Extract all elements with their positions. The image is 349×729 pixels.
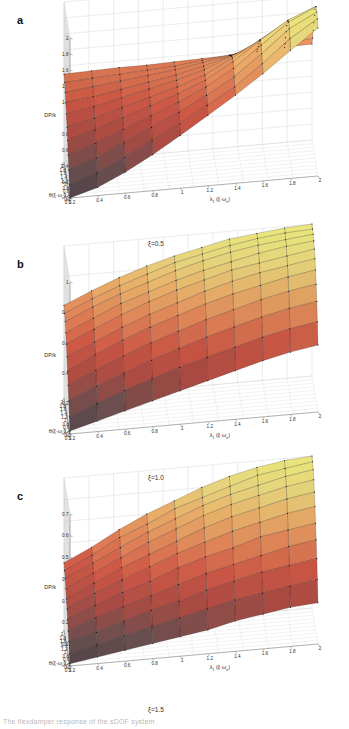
svg-text:0.4: 0.4: [96, 198, 103, 203]
svg-text:0.8: 0.8: [151, 661, 158, 666]
svg-text:0.2: 0.2: [69, 436, 76, 441]
svg-text:0.8: 0.8: [151, 193, 158, 198]
svg-text:λ1 (ξ·ωn): λ1 (ξ·ωn): [210, 432, 230, 440]
svg-text:1.6: 1.6: [262, 183, 269, 188]
svg-text:1.8: 1.8: [289, 181, 296, 186]
svg-text:1.8: 1.8: [289, 417, 296, 422]
plot-b: 10.80.60.40.20DP/k21.81.61.41.210.80.60.…: [52, 266, 332, 456]
svg-text:1.2: 1.2: [207, 188, 214, 193]
svg-text:2: 2: [66, 36, 69, 41]
svg-text:1.6: 1.6: [262, 651, 269, 656]
svg-text:0.4: 0.4: [96, 666, 103, 671]
svg-text:θ(ξ·ωn): θ(ξ·ωn): [49, 192, 66, 200]
svg-text:λ1 (ξ·ωn): λ1 (ξ·ωn): [210, 196, 230, 204]
svg-text:1.2: 1.2: [207, 656, 214, 661]
svg-text:1: 1: [181, 190, 184, 195]
svg-text:2: 2: [319, 646, 322, 651]
panel-b: b 10.80.60.40.20DP/k21.81.61.41.210.80.6…: [0, 252, 349, 484]
svg-text:0.2: 0.2: [69, 200, 76, 205]
panel-c: c 0.70.60.50.40.30.20.10DP/k21.81.61.41.…: [0, 484, 349, 724]
plot-a: 21.81.61.41.210.80.60.40.20DP/k21.81.61.…: [52, 22, 332, 212]
plot-c: 0.70.60.50.40.30.20.10DP/k21.81.61.41.21…: [52, 498, 332, 688]
panel-a: a 21.81.61.41.210.80.60.40.20DP/k21.81.6…: [0, 8, 349, 252]
svg-text:0.7: 0.7: [62, 512, 69, 517]
svg-text:0.5: 0.5: [62, 555, 69, 560]
svg-text:1: 1: [66, 280, 69, 285]
svg-text:1.8: 1.8: [289, 649, 296, 654]
figure-page: · · · · · a 21.81.61.41.210.80.60.40.20D…: [0, 0, 349, 729]
svg-text:DP/k: DP/k: [44, 112, 56, 118]
svg-text:1.2: 1.2: [207, 424, 214, 429]
svg-text:1.6: 1.6: [62, 68, 69, 73]
panel-letter-a: a: [17, 14, 23, 26]
svg-text:2: 2: [319, 414, 322, 419]
xi-caption: ξ=1.5: [148, 706, 164, 713]
svg-text:λ1 (ξ·ωn): λ1 (ξ·ωn): [210, 664, 230, 672]
svg-text:0.6: 0.6: [62, 533, 69, 538]
xi-caption: ξ=0.5: [148, 240, 164, 247]
svg-text:2: 2: [319, 178, 322, 183]
svg-text:θ(ξ·ωn): θ(ξ·ωn): [49, 428, 66, 436]
svg-text:0.6: 0.6: [124, 195, 131, 200]
svg-text:0.2: 0.2: [69, 668, 76, 673]
panel-letter-b: b: [17, 258, 24, 270]
svg-text:0.6: 0.6: [124, 431, 131, 436]
svg-text:θ(ξ·ωn): θ(ξ·ωn): [49, 660, 66, 668]
svg-text:1: 1: [181, 426, 184, 431]
svg-text:0.6: 0.6: [124, 663, 131, 668]
figure-caption-partial: The flexdamper response of the sDOF syst…: [3, 718, 347, 729]
panel-letter-c: c: [17, 490, 23, 502]
xi-caption: ξ=1.0: [148, 474, 164, 481]
svg-text:DP/k: DP/k: [44, 352, 56, 358]
svg-text:0.4: 0.4: [96, 434, 103, 439]
svg-text:1.8: 1.8: [62, 52, 69, 57]
svg-text:1: 1: [181, 658, 184, 663]
svg-text:1.4: 1.4: [234, 422, 241, 427]
svg-text:1.4: 1.4: [234, 654, 241, 659]
svg-text:1.4: 1.4: [234, 186, 241, 191]
svg-text:DP/k: DP/k: [44, 584, 56, 590]
svg-text:0.8: 0.8: [151, 429, 158, 434]
svg-text:1.6: 1.6: [262, 419, 269, 424]
